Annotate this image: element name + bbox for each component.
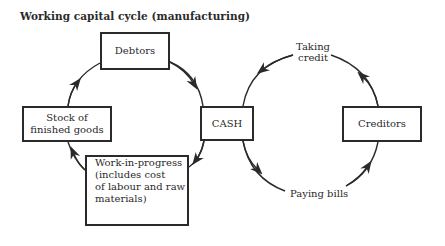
node-stock-label-line1: Stock of: [46, 112, 87, 124]
arrow-wip-to-stock: [68, 142, 85, 170]
node-cash: CASH: [200, 106, 254, 141]
node-wip-label-line2: (includes cost: [95, 169, 165, 181]
node-wip-label-line1: Work-in-progress: [95, 157, 182, 169]
arrow-stock-to-debtors: [68, 63, 100, 106]
edge-label-taking-credit: Taking credit: [292, 41, 334, 63]
node-stock-finished-goods: Stock of finished goods: [22, 106, 112, 142]
node-work-in-progress: Work-in-progress (includes cost of labou…: [85, 155, 189, 226]
arrow-debtors-to-cash: [170, 62, 203, 106]
arrow-creditors-to-taking-credit: [331, 55, 378, 106]
node-debtors-label: Debtors: [115, 45, 155, 57]
node-stock-label-line2: finished goods: [30, 124, 103, 136]
arrow-cash-to-paying-bills: [243, 141, 285, 191]
node-wip-label-line3: of labour and raw: [95, 181, 185, 193]
node-creditors-label: Creditors: [358, 118, 406, 130]
node-creditors: Creditors: [342, 106, 422, 142]
arrow-taking-credit-to-cash: [243, 55, 293, 106]
node-debtors: Debtors: [100, 32, 170, 70]
node-wip-label-line4: materials): [95, 193, 147, 205]
arrow-cash-to-wip: [189, 141, 204, 167]
taking-credit-line1: Taking: [292, 41, 334, 52]
taking-credit-line2: credit: [292, 52, 334, 63]
node-cash-label: CASH: [212, 118, 242, 130]
arrow-paying-bills-to-creditors: [346, 142, 378, 186]
edge-label-paying-bills: Paying bills: [290, 188, 346, 199]
